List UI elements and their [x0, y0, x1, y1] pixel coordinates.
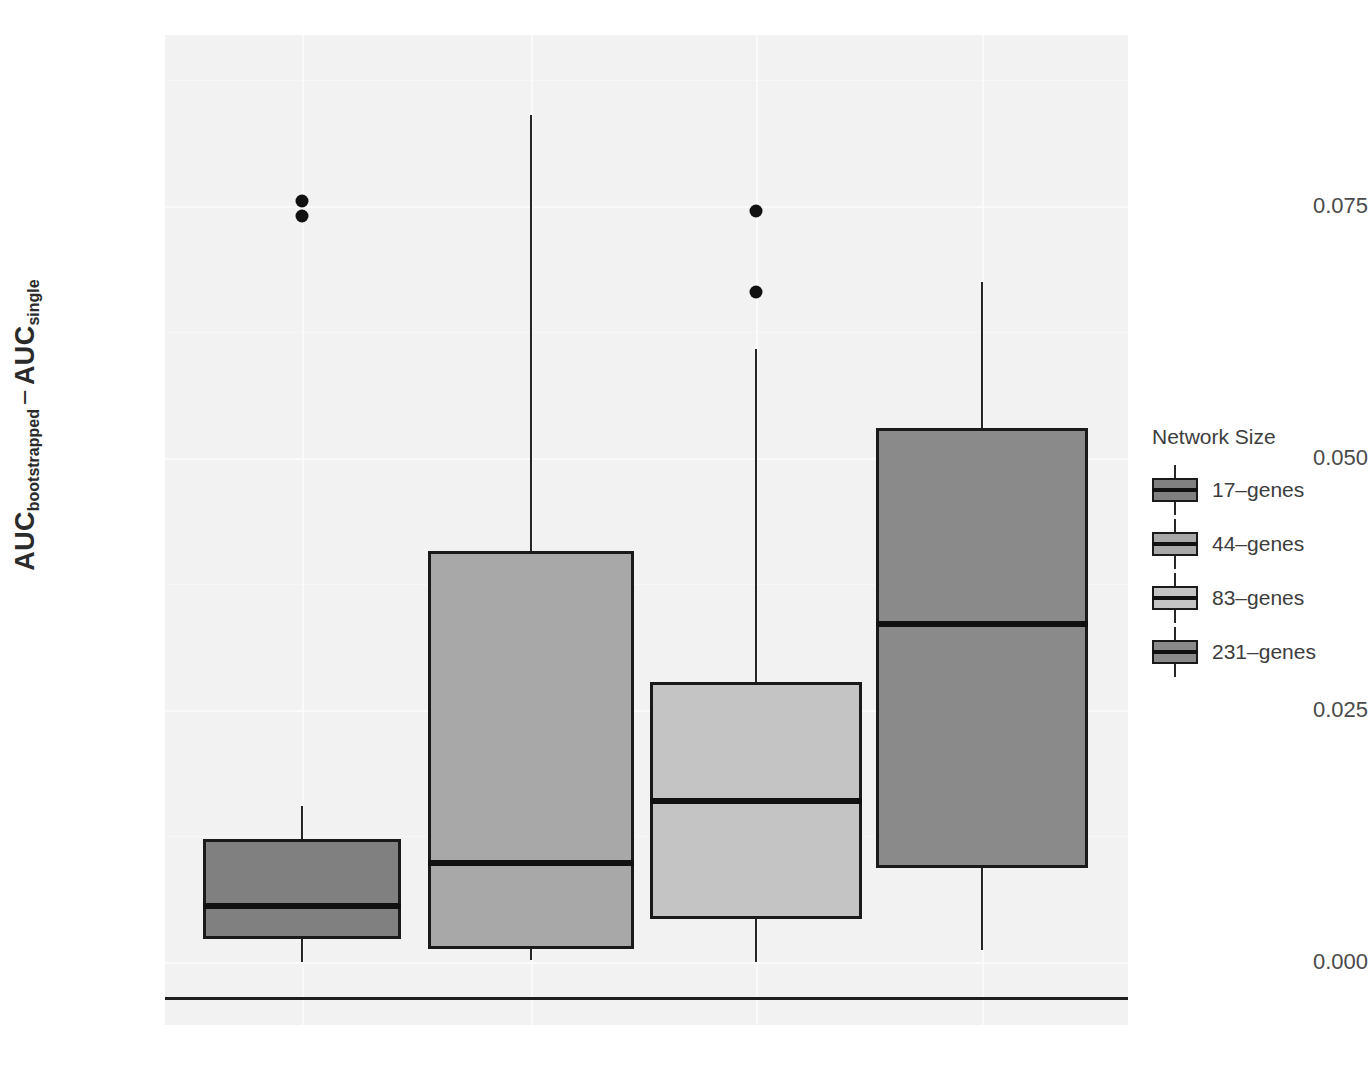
legend-swatch-median	[1152, 488, 1198, 492]
legend-item-83-genes[interactable]: 83–genes	[1152, 571, 1362, 625]
legend-item-17-genes[interactable]: 17–genes	[1152, 463, 1362, 517]
legend-label-44-genes: 44–genes	[1212, 532, 1304, 556]
legend-swatch-17-genes	[1152, 465, 1198, 515]
y-tick-label-0025: 0.025	[1223, 697, 1368, 723]
whisker-upper-box3	[755, 349, 757, 682]
y-axis-title-term2: AUC	[10, 326, 40, 385]
x-axis-line	[165, 997, 1128, 1000]
whisker-lower-box3	[755, 919, 757, 962]
outlier-point-box1	[296, 194, 309, 207]
legend-item-231-genes[interactable]: 231–genes	[1152, 625, 1362, 679]
whisker-upper-box2	[530, 115, 532, 550]
whisker-lower-box2	[530, 949, 532, 960]
y-tick-label-0075: 0.075	[1223, 193, 1368, 219]
whisker-lower-box1	[301, 939, 303, 962]
legend-swatch-83-genes	[1152, 573, 1198, 623]
legend-title: Network Size	[1152, 425, 1362, 449]
legend-swatch-median	[1152, 542, 1198, 546]
box-231-genes	[876, 428, 1088, 868]
boxplot-figure: AUCbootstrapped−AUCsingle 0.075 0.050 0.…	[0, 0, 1368, 1083]
legend-label-83-genes: 83–genes	[1212, 586, 1304, 610]
outlier-point-box3	[750, 285, 763, 298]
y-axis-title-operator: −	[10, 385, 40, 409]
legend-swatch-median	[1152, 596, 1198, 600]
median-box4	[876, 621, 1088, 627]
outlier-point-box3	[750, 205, 763, 218]
legend-swatch-median	[1152, 650, 1198, 654]
box-17-genes	[203, 839, 401, 939]
median-box1	[203, 903, 401, 909]
whisker-lower-box4	[981, 868, 983, 950]
y-axis-title: AUCbootstrapped−AUCsingle	[10, 275, 50, 575]
legend: Network Size 17–genes 44–genes	[1152, 425, 1362, 679]
y-axis-title-term2-subscript: single	[25, 279, 42, 325]
y-axis-title-term1: AUC	[10, 511, 40, 570]
y-axis-title-term1-subscript: bootstrapped	[25, 409, 42, 511]
plot-panel	[165, 35, 1128, 1025]
box-44-genes	[428, 551, 634, 949]
outlier-point-box1	[296, 210, 309, 223]
whisker-upper-box1	[301, 806, 303, 839]
y-tick-label-0000: 0.000	[1223, 949, 1368, 975]
legend-swatch-231-genes	[1152, 627, 1198, 677]
median-box2	[428, 860, 634, 866]
legend-swatch-44-genes	[1152, 519, 1198, 569]
median-box3	[650, 798, 862, 804]
legend-label-231-genes: 231–genes	[1212, 640, 1316, 664]
legend-item-44-genes[interactable]: 44–genes	[1152, 517, 1362, 571]
whisker-upper-box4	[981, 282, 983, 428]
legend-label-17-genes: 17–genes	[1212, 478, 1304, 502]
